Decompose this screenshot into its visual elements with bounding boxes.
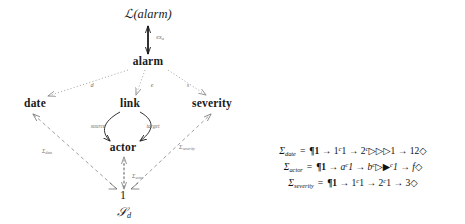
equation-sigma-date-equals: = [296,143,309,159]
node-one: 1 [120,189,126,201]
edge-label-s-text: s [187,81,189,88]
edge-label-ex-a: exa [156,34,164,42]
edge-label-source: source [91,124,106,130]
equation-sigma-date: Σdate = ¶1 → 1c1 → 2c▷▷▷1 → 12◇ [243,143,463,159]
node-severity-label: severity [192,97,232,109]
node-alarm-label: alarm [133,55,163,67]
node-alarm: alarm [133,56,163,68]
arrow-e [136,70,145,95]
edge-label-d: d [90,82,93,88]
equation-sigma-date-lhs-sub: date [285,150,296,157]
node-date: date [24,98,46,110]
equation-list: Σdate = ¶1 → 1c1 → 2c▷▷▷1 → 12◇ Σactor =… [243,143,463,191]
arrow-source [104,112,120,141]
node-s-d-sub: d [127,211,131,220]
equation-sigma-actor: Σactor = ¶1 → ac1 → bc▷▶c1 → f◇ [243,159,463,175]
node-actor-label: actor [110,141,137,153]
edge-label-s: s [187,82,189,88]
node-s-d: 𝒮d [117,206,131,220]
edge-label-target-text: target [146,123,159,129]
edge-label-target: target [146,124,159,130]
edge-label-sigma-actor-sub: actor [135,175,143,180]
edge-label-sigma-severity: Σseverity [179,145,195,151]
edge-label-sigma-date-sub: date [45,150,52,155]
node-s-d-label: 𝒮 [117,205,127,219]
node-severity: severity [192,98,232,110]
equation-sigma-actor-equals: = [303,159,316,175]
edge-label-sigma-date: Σdate [42,149,52,155]
node-l-alarm: ℒ(alarm) [124,8,171,21]
edge-label-source-text: source [91,123,106,129]
equation-sigma-severity-lhs-sub: severity [294,181,314,188]
equation-sigma-severity: Σseverity = ¶1 → 1c1 → 2c1 → 3◇ [243,175,463,191]
edge-label-d-text: d [90,81,93,88]
node-one-label: 1 [120,188,126,202]
arrow-d [48,70,128,96]
equation-sigma-actor-lhs: Σactor [284,159,303,175]
node-l-alarm-label: ℒ(alarm) [124,7,171,21]
node-link: link [120,98,140,110]
equation-sigma-actor-rhs: ¶1 → ac1 → bc▷▶c1 → f◇ [316,159,422,175]
equation-sigma-severity-equals: = [314,175,327,191]
equation-sigma-severity-rhs: ¶1 → 1c1 → 2c1 → 3◇ [327,175,418,191]
equation-sigma-severity-lhs: Σseverity [288,175,313,191]
edge-label-sigma-actor: Σactor [132,174,144,180]
equation-sigma-actor-lhs-sub: actor [289,165,302,172]
edge-label-sigma-severity-sub: severity [182,146,195,151]
edge-label-e: e [151,82,154,88]
equation-sigma-date-rhs: ¶1 → 1c1 → 2c▷▷▷1 → 12◇ [309,143,426,159]
edge-label-ex-a-sub: a [162,36,164,41]
node-link-label: link [120,97,140,109]
equation-sigma-date-lhs: Σdate [279,143,296,159]
figure-canvas: ℒ(alarm) alarm date link severity actor … [0,0,465,224]
edge-label-e-text: e [151,81,154,88]
node-date-label: date [24,97,46,109]
node-actor: actor [110,142,137,154]
